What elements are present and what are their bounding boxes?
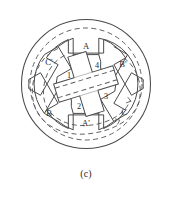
motor-cross-section-diagram: A B' C A' B C' 1 2 3 4	[0, 0, 172, 172]
stator-bore-arc-C-to-Aprime	[99, 121, 114, 129]
stator-label-Aprime: A'	[82, 118, 90, 128]
figure-caption: (c)	[0, 168, 172, 179]
stator-label-A: A	[83, 41, 90, 51]
stator-bore-arc-Cprime-to-A	[58, 38, 73, 46]
stator-bore-arc-A-tip-right	[99, 55, 101, 69]
stator-label-B: B	[46, 108, 52, 118]
stator-bore-arc-Bprime-to-C	[128, 55, 138, 114]
flux-arrow-right	[127, 98, 132, 103]
rotor-label-3: 3	[104, 92, 108, 101]
rotor-label-2: 2	[77, 102, 81, 111]
figure-container: A B' C A' B C' 1 2 3 4 (c)	[0, 0, 172, 198]
stator-bore-arc-Aprime-tip-left	[71, 99, 73, 113]
stator-bore-arc-B-to-Cprime	[34, 55, 44, 114]
rotor-cross-profile	[47, 45, 124, 122]
stator-label-Cprime: C'	[45, 57, 53, 67]
stator-label-Bprime: B'	[119, 59, 127, 69]
rotor-label-1: 1	[67, 71, 71, 80]
stator-label-C: C	[121, 107, 127, 117]
rotor-label-4: 4	[95, 61, 99, 70]
rotor-assembly	[47, 45, 124, 122]
